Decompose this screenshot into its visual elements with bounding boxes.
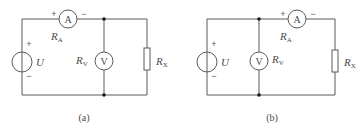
voltmeter-a: V RV [75,52,113,70]
panel-caption-a: (a) [78,112,89,124]
source-plus-sign: + [211,39,216,49]
circuit-panel-b: + − U A + − RA V RV RX (b) [197,9,356,124]
source-label: U [221,56,230,68]
voltmeter-symbol: V [100,56,108,67]
circuit-panel-a: + − U A + − RA V RV RX (a) [12,9,168,124]
source-plus-sign: + [26,39,31,49]
ammeter-resistance-label: RA [279,30,292,44]
voltage-source-b: + − U [197,39,230,81]
node-dot-icon [102,93,106,97]
node-dot-icon [257,17,261,21]
ammeter-symbol: A [64,14,72,25]
node-dot-icon [102,17,106,21]
source-minus-sign: − [26,71,31,81]
node-dot-icon [257,93,261,97]
source-minus-sign: − [211,71,216,81]
voltmeter-resistance-label: RV [75,54,88,68]
ammeter-a: A + − RA [50,9,87,44]
resistor-a: RX [144,48,168,70]
voltmeter-symbol: V [255,56,263,67]
resistor-label: RX [155,55,168,69]
ammeter-symbol: A [293,14,301,25]
ammeter-b: A + − RA [279,9,316,44]
ammeter-plus-sign: + [280,9,285,19]
voltmeter-b: V RV [250,52,284,70]
ammeter-resistance-label: RA [50,30,63,44]
source-label: U [36,56,45,68]
voltmeter-resistance-label: RV [271,53,284,67]
resistor-icon [332,50,338,72]
ammeter-plus-sign: + [51,9,56,19]
ammeter-minus-sign: − [310,9,315,19]
voltage-source-a: + − U [12,39,45,81]
resistor-b: RX [332,50,356,72]
ammeter-minus-sign: − [81,9,86,19]
resistor-icon [144,48,150,70]
resistor-label: RX [343,56,356,70]
panel-caption-b: (b) [266,112,278,124]
circuit-figure: + − U A + − RA V RV RX (a) [0,0,364,134]
